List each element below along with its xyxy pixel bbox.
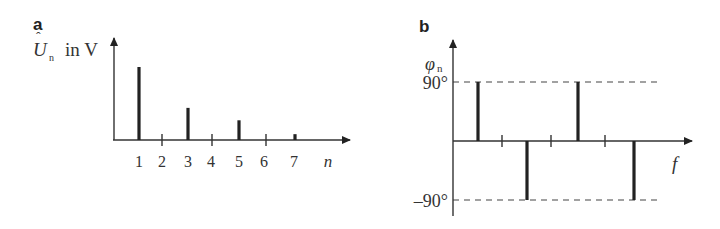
figure: a U ˆ n in V 1 2 3 4 5 6 7 n b: [0, 0, 720, 229]
x-tick-label: 6: [260, 153, 268, 170]
bars-a: [139, 67, 295, 140]
x-tick-label: 4: [207, 153, 215, 170]
x-axis-label-b: f: [672, 153, 680, 174]
y-label-unit: in V: [65, 39, 98, 60]
x-tick-labels-a: 1 2 3 4 5 6 7 n: [135, 152, 332, 171]
x-tick-label: 2: [158, 153, 166, 170]
y-tick-90: 90°: [423, 73, 448, 93]
y-axis-label-a: U ˆ n in V: [33, 30, 98, 63]
y-tick-neg90: –90°: [413, 191, 448, 211]
x-tick-label: 5: [235, 153, 243, 170]
x-tick-label: 3: [184, 153, 192, 170]
panel-label-b: b: [419, 17, 429, 36]
x-tick-label: 1: [135, 153, 143, 170]
chart-b: b φ n 90° –90° f: [413, 17, 692, 216]
hat-accent: ˆ: [36, 30, 41, 45]
y-label-sub: n: [49, 52, 54, 63]
x-axis-label-a: n: [324, 152, 333, 171]
chart-a: a U ˆ n in V 1 2 3 4 5 6 7 n: [33, 15, 350, 171]
x-tick-label: 7: [290, 153, 298, 170]
y-label-main-b: φ: [425, 54, 435, 74]
